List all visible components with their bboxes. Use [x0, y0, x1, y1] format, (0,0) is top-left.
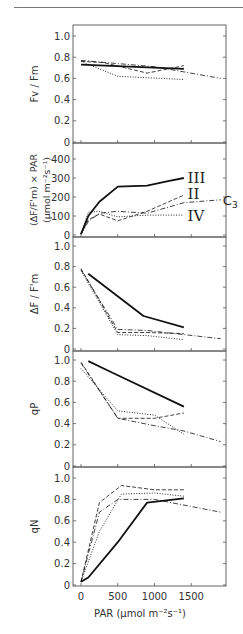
y-axis-label-units: (μmol m⁻²s⁻¹): [41, 157, 52, 223]
y-axis-label: (ΔF/F'm) × PAR: [28, 154, 39, 227]
y-axis-label: qN: [29, 520, 40, 534]
series-c3: [81, 270, 221, 339]
y-axis-label: qP: [29, 403, 40, 415]
y-tick-label: 0.8: [54, 52, 70, 63]
y-tick-label: 400: [51, 154, 70, 165]
y-tick-label: 0.2: [54, 323, 70, 334]
y-tick-label: 0.4: [54, 418, 70, 429]
panel-frame: [73, 351, 226, 467]
y-tick-label: 0: [64, 580, 70, 591]
series-annotation: C3: [223, 193, 238, 210]
x-axis-label: PAR (μmol m⁻²s⁻¹): [94, 608, 186, 619]
series-iv: [81, 211, 184, 234]
y-tick-label: 0.6: [54, 73, 70, 84]
panel-2: 0100200300400(ΔF/F'm) × PAR(μmol m⁻²s⁻¹)…: [28, 143, 238, 241]
x-tick-label: 1500: [179, 591, 204, 602]
panel-5: 00.20.40.60.81.0qN050010001500PAR (μmol …: [29, 467, 226, 619]
x-tick-label: 500: [108, 591, 127, 602]
y-axis-label: Fv / Fm: [29, 66, 40, 103]
y-tick-label: 0: [64, 230, 70, 241]
y-tick-label: 1.0: [54, 31, 70, 42]
series-c3: [81, 60, 221, 78]
multi-panel-chart: 00.20.40.60.81.0Fv / Fm0100200300400(ΔF/…: [0, 0, 243, 634]
series-annotation: IV: [188, 207, 206, 225]
panel-frame: [73, 25, 226, 143]
y-tick-label: 100: [51, 211, 70, 222]
series-iv: [81, 369, 184, 435]
y-tick-label: 0.6: [54, 515, 70, 526]
y-tick-label: 1.0: [54, 473, 70, 484]
y-tick-label: 0.2: [54, 558, 70, 569]
y-axis-label: ΔF / F'm: [29, 274, 40, 315]
y-tick-label: 0.6: [54, 397, 70, 408]
y-tick-label: 0: [64, 461, 70, 472]
y-tick-label: 300: [51, 173, 70, 184]
series-iii: [81, 178, 184, 234]
series-iii: [81, 65, 184, 69]
y-tick-label: 0.4: [54, 537, 70, 548]
y-tick-label: 1.0: [54, 241, 70, 252]
series-annotation: II: [188, 185, 200, 203]
y-tick-label: 0.4: [54, 94, 70, 105]
series-c3: [81, 363, 221, 441]
panel-3: 00.20.40.60.81.0ΔF / F'm: [29, 237, 226, 355]
series-ii: [81, 195, 184, 234]
series-iv: [81, 61, 184, 79]
panel-4: 00.20.40.60.81.0qP: [29, 351, 226, 472]
y-tick-label: 200: [51, 192, 70, 203]
x-tick-label: 1000: [142, 591, 167, 602]
y-tick-label: 0.2: [54, 115, 70, 126]
y-tick-label: 0: [64, 344, 70, 355]
series-ii: [81, 362, 184, 418]
y-tick-label: 0.2: [54, 439, 70, 450]
y-tick-label: 0.8: [54, 494, 70, 505]
y-tick-label: 0.8: [54, 261, 70, 272]
panel-1: 00.20.40.60.81.0Fv / Fm: [29, 25, 226, 148]
y-tick-label: 0.4: [54, 302, 70, 313]
series-iii: [88, 274, 184, 328]
series-iii: [88, 361, 184, 407]
y-tick-label: 0.8: [54, 376, 70, 387]
y-tick-label: 0: [64, 137, 70, 148]
y-tick-label: 1.0: [54, 355, 70, 366]
x-tick-label: 0: [78, 591, 84, 602]
y-tick-label: 0.6: [54, 282, 70, 293]
panel-frame: [73, 237, 226, 351]
series-c3: [81, 499, 221, 581]
